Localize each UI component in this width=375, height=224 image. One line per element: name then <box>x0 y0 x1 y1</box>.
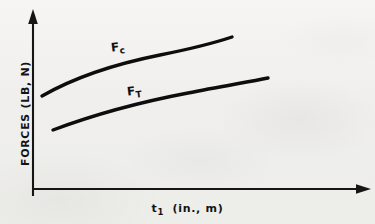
x-axis-title-units: (in., m) <box>173 202 224 215</box>
curve-label-ft: FT <box>126 83 142 101</box>
curve-ft <box>53 78 268 130</box>
y-axis-arrow-icon <box>28 9 38 24</box>
curve-label-fc-subscript: c <box>119 45 126 56</box>
x-axis-title: t1 (in., m) <box>0 202 375 217</box>
x-axis-title-subscript: 1 <box>158 207 164 217</box>
curve-label-fc: Fc <box>110 39 125 57</box>
curve-label-ft-subscript: T <box>135 89 142 100</box>
x-axis-arrow-icon <box>356 184 371 193</box>
y-axis-title: FORCES (LB, N) <box>19 49 32 179</box>
figure-container: FORCES (LB, N) t1 (in., m) Fc FT <box>0 0 375 224</box>
plot-canvas <box>0 0 375 224</box>
